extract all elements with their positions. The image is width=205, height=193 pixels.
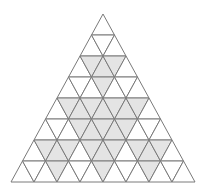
triangular-grid-diagram — [0, 0, 205, 193]
triangle — [92, 14, 115, 35]
triangle-cells — [11, 14, 195, 182]
